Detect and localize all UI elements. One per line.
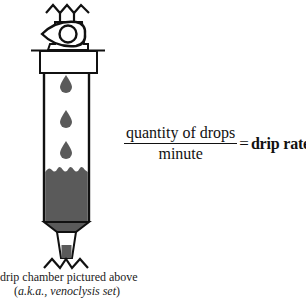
figure-caption: drip chamber pictured above (a.k.a., ven… bbox=[0, 270, 134, 298]
caption-line-1: drip chamber pictured above bbox=[0, 270, 134, 284]
bottom-zigzag-icon bbox=[44, 259, 88, 268]
formula-result: drip rate bbox=[251, 135, 306, 153]
formula-denominator: minute bbox=[158, 144, 202, 163]
formula-fraction: quantity of drops minute bbox=[124, 124, 237, 163]
formula-numerator: quantity of drops bbox=[124, 124, 237, 144]
drop-icon bbox=[60, 110, 72, 128]
drip-rate-formula: quantity of drops minute = drip rate bbox=[124, 124, 306, 163]
falling-drops bbox=[60, 75, 72, 159]
chamber-cap bbox=[40, 51, 97, 73]
caption-close-paren: ) bbox=[116, 284, 120, 298]
top-zigzag-icon bbox=[46, 5, 89, 22]
roller-clamp-icon bbox=[42, 22, 85, 47]
chamber-funnel bbox=[44, 222, 89, 232]
fluid-level bbox=[45, 167, 88, 222]
drop-icon bbox=[60, 75, 72, 93]
formula-equals: = bbox=[239, 134, 249, 154]
caption-alias: a.k.a., venoclysis set bbox=[18, 284, 116, 298]
spout-fluid bbox=[62, 245, 72, 258]
drop-icon bbox=[60, 141, 72, 159]
caption-line-2: (a.k.a., venoclysis set) bbox=[0, 284, 134, 298]
